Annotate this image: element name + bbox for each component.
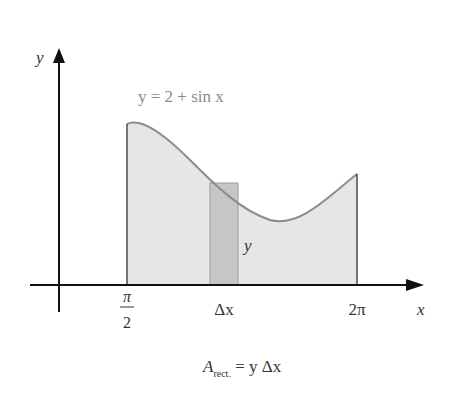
area-diagram: y y = 2 + sin x y π 2 Δx 2π x Arect. = y… <box>0 0 450 409</box>
tick-pi-numerator: π <box>123 288 132 305</box>
caption: Arect. = y Δx <box>202 357 282 379</box>
caption-a: A <box>202 357 214 376</box>
tick-2pi: 2π <box>348 300 366 319</box>
shaded-region <box>127 123 357 286</box>
caption-rest: = y Δx <box>231 357 282 376</box>
rect-height-label: y <box>242 236 252 255</box>
caption-subscript: rect. <box>213 368 231 379</box>
representative-rectangle <box>210 183 238 285</box>
y-axis-label: y <box>34 48 44 67</box>
x-axis-arrow-icon <box>406 279 424 291</box>
function-label: y = 2 + sin x <box>138 87 224 106</box>
tick-pi-denominator: 2 <box>123 314 131 331</box>
y-axis-arrow-icon <box>53 48 65 63</box>
tick-delta-x: Δx <box>214 300 234 319</box>
x-axis-label: x <box>416 300 425 319</box>
